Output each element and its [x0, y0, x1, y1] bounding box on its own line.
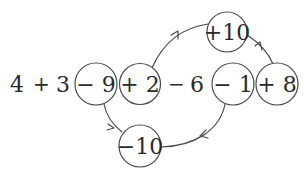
result-minus10: −10	[117, 125, 163, 167]
arc-plus8-to-plus10	[247, 35, 273, 64]
token-4: 4	[10, 72, 24, 97]
circled-term-minus9-label: − 9	[76, 72, 115, 97]
result-minus10-label: −10	[117, 134, 163, 159]
arrowhead-minus9-to-minus10	[107, 124, 114, 130]
token-minus: −	[168, 72, 185, 96]
result-plus10: +10	[204, 12, 250, 52]
result-plus10-label: +10	[204, 20, 250, 45]
circled-term-plus8: + 8	[256, 63, 298, 105]
token-6: 6	[190, 72, 204, 97]
arrowhead-minus1-to-minus10	[200, 130, 208, 138]
token-3: 3	[56, 72, 70, 97]
arc-plus2-to-plus10	[152, 24, 208, 68]
circled-term-minus1: − 1	[212, 63, 254, 105]
grouping-diagram: 4 + 3 − 9 + 2 − 6 − 1 + 8 +10 −10	[0, 0, 305, 172]
circled-term-plus2: + 2	[120, 64, 161, 105]
circled-term-minus9: − 9	[75, 63, 117, 105]
token-plus: +	[33, 72, 50, 96]
circled-term-plus2-label: + 2	[120, 72, 159, 97]
circled-term-plus8-label: + 8	[257, 72, 296, 97]
arc-minus1-to-minus10	[161, 104, 225, 147]
arrowhead-plus8-to-plus10	[255, 42, 262, 50]
circled-term-minus1-label: − 1	[213, 72, 252, 97]
